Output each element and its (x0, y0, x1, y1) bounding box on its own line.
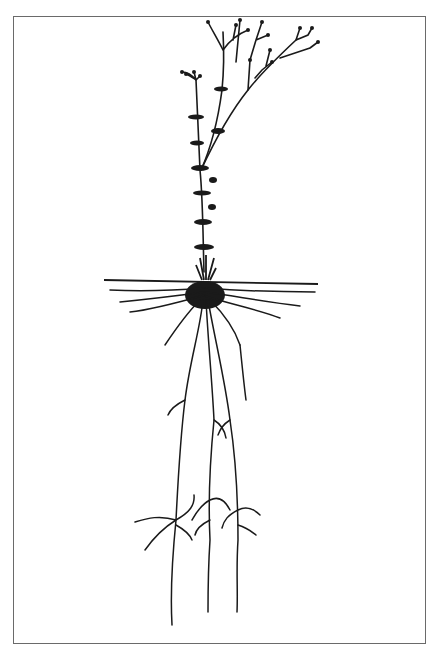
root-system (110, 281, 315, 625)
shoot-system (182, 20, 318, 272)
basal-tuft (196, 255, 216, 280)
leaf-whorls (188, 87, 228, 251)
plant-illustration (0, 0, 445, 659)
